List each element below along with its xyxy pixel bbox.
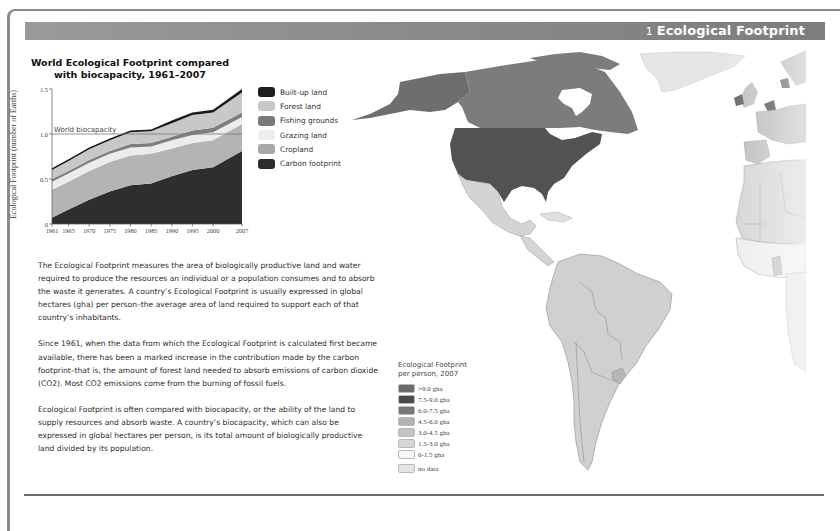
chart-legend-label: Fishing grounds [280, 116, 338, 125]
chart-legend-item: Built-up land [258, 85, 341, 99]
legend-swatch-icon [398, 417, 415, 427]
legend-swatch-icon [398, 406, 415, 416]
chart-legend-label: Carbon footprint [280, 159, 341, 168]
x-tick-label: 1985 [145, 227, 158, 234]
legend-swatch-icon [398, 428, 415, 438]
map-legend-title-line-1: Ecological Footprint [398, 361, 467, 370]
x-tick-label: 1990 [165, 227, 178, 234]
x-tick-label: 2007 [236, 227, 249, 234]
map-legend-item: >9.0 gha [398, 383, 467, 394]
map-legend-title-line-2: per person, 2007 [398, 370, 467, 379]
map-legend-item: 4.5-6.0 gha [398, 416, 467, 427]
y-tick-label: 0.5 [40, 176, 48, 183]
map-legend-title: Ecological Footprint per person, 2007 [398, 361, 467, 379]
map-region-caribbean [540, 212, 572, 222]
map-legend-label: 3.0-4.5 gha [418, 429, 450, 437]
chart-legend-label: Grazing land [280, 131, 327, 140]
legend-swatch-icon [258, 101, 275, 111]
map-legend-item: 7.5-9.0 gha [398, 394, 467, 405]
paragraph-2: Since 1961, when the data from which the… [38, 337, 378, 389]
legend-swatch-icon [398, 439, 415, 449]
chart-legend-item: Fishing grounds [258, 114, 341, 128]
x-tick-label: 1965 [62, 227, 75, 234]
legend-swatch-icon [258, 116, 275, 126]
paragraph-1: The Ecological Footprint measures the ar… [38, 259, 378, 324]
section-title: 1Ecological Footprint [646, 22, 805, 40]
section-header-bar: 1Ecological Footprint [25, 22, 825, 40]
chart-legend: Built-up landForest landFishing groundsG… [258, 85, 341, 171]
legend-swatch-icon [258, 87, 275, 97]
x-tick-label: 1961 [46, 227, 59, 234]
map-legend-item: 6.0-7.5 gha [398, 405, 467, 416]
chart-title: World Ecological Footprint compared with… [30, 57, 230, 81]
body-text: The Ecological Footprint measures the ar… [38, 259, 378, 468]
map-region-alaska [352, 72, 470, 120]
x-tick-label: 1980 [124, 227, 137, 234]
map-legend-item: 0-1.5 gha [398, 449, 467, 460]
chart-legend-label: Built-up land [280, 88, 327, 97]
map-legend-label: >9.0 gha [418, 385, 443, 393]
chart-legend-label: Cropland [280, 145, 313, 154]
chart-legend-item: Cropland [258, 142, 341, 156]
x-tick-label: 1975 [104, 227, 117, 234]
legend-swatch-icon [398, 395, 415, 405]
legend-swatch-icon [398, 464, 415, 474]
y-tick-label: 1.0 [40, 131, 48, 138]
map-legend-item: 1.5-3.0 gha [398, 438, 467, 449]
paragraph-3: Ecological Footprint is often compared w… [38, 403, 378, 455]
map-region-south-america [546, 254, 672, 470]
legend-swatch-icon [258, 159, 275, 169]
map-legend-label: 7.5-9.0 gha [418, 396, 450, 404]
biocapacity-label: World biocapacity [54, 126, 117, 134]
legend-swatch-icon [398, 450, 415, 460]
map-legend-item: 3.0-4.5 gha [398, 427, 467, 438]
map-legend-label: no data [418, 465, 438, 473]
x-tick-label: 1995 [186, 227, 199, 234]
chart-legend-item: Carbon footprint [258, 156, 341, 170]
x-tick-label: 1970 [83, 227, 96, 234]
map-legend-label: 4.5-6.0 gha [418, 418, 450, 426]
x-tick-label: 2000 [207, 227, 220, 234]
map-legend-label: 1.5-3.0 gha [418, 440, 450, 448]
chart-title-line-1: World Ecological Footprint compared [30, 57, 230, 69]
stacked-area-chart: World biocapacity00.51.01.51961196519701… [0, 80, 260, 240]
map-edge-fade [720, 42, 806, 494]
section-number: 1 [646, 25, 653, 38]
y-tick-label: 1.5 [40, 86, 48, 93]
chart-legend-item: Grazing land [258, 128, 341, 142]
map-region-central-america [520, 236, 554, 266]
map-legend: Ecological Footprint per person, 2007 >9… [398, 361, 467, 474]
chart-legend-item: Forest land [258, 99, 341, 113]
chart-legend-label: Forest land [280, 102, 321, 111]
bottom-rule [24, 494, 824, 496]
legend-swatch-icon [398, 384, 415, 394]
legend-swatch-icon [258, 130, 275, 140]
map-legend-label: 0-1.5 gha [418, 451, 444, 459]
section-title-text: Ecological Footprint [657, 23, 805, 38]
map-legend-label: 6.0-7.5 gha [418, 407, 450, 415]
map-region-canada [458, 60, 638, 134]
legend-swatch-icon [258, 144, 275, 154]
map-legend-item: no data [398, 463, 467, 474]
